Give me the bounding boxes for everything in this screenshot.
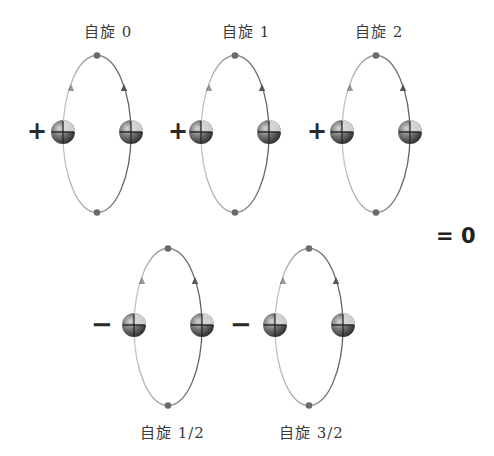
loop-spin-0 [51,52,143,216]
loop-spin-3-2 [263,245,355,409]
minus-sign: − [230,312,252,336]
label-spin-1-2: 自旋 1/2 [140,421,205,442]
plus-sign: + [168,119,188,143]
equals-zero: = 0 [436,224,476,248]
label-spin-0: 自旋 0 [84,20,132,41]
label-spin-1: 自旋 1 [222,20,270,41]
spin-loop-cancellation-diagram: 自旋 0 自旋 1 自旋 2 + + + − − 自旋 1/2 自旋 3/2 =… [0,0,494,456]
loop-spin-1-2 [122,245,214,409]
loop-spin-1 [189,52,281,216]
diagram-graphics [0,0,494,456]
minus-sign: − [91,312,113,336]
loop-spin-2 [330,52,422,216]
plus-sign: + [307,119,327,143]
label-spin-3-2: 自旋 3/2 [279,421,344,442]
plus-sign: + [27,119,47,143]
label-spin-2: 自旋 2 [355,20,403,41]
